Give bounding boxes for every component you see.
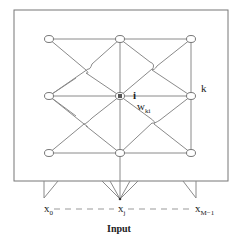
input-junction <box>119 198 122 201</box>
neuron-node <box>187 36 196 43</box>
label-i: i <box>133 89 136 101</box>
neuron-node <box>116 150 125 157</box>
input-caption: Input <box>107 223 132 234</box>
neuron-node <box>45 150 54 157</box>
som-diagram: i k wki x0 xj xM−1 Input <box>0 0 237 242</box>
winner-marker <box>118 94 122 98</box>
input-label-x0: x0 <box>44 202 54 217</box>
neuron-node-k <box>187 93 196 100</box>
neuron-node <box>45 93 54 100</box>
lattice-connections <box>49 39 191 181</box>
neuron-node <box>187 150 196 157</box>
label-weight: wki <box>137 100 150 115</box>
label-k: k <box>201 82 207 94</box>
neuron-node <box>45 36 54 43</box>
input-label-xj: xj <box>118 202 126 217</box>
input-label-xM-1: xM−1 <box>195 202 215 217</box>
neuron-node <box>116 36 125 43</box>
input-connections <box>44 181 196 199</box>
